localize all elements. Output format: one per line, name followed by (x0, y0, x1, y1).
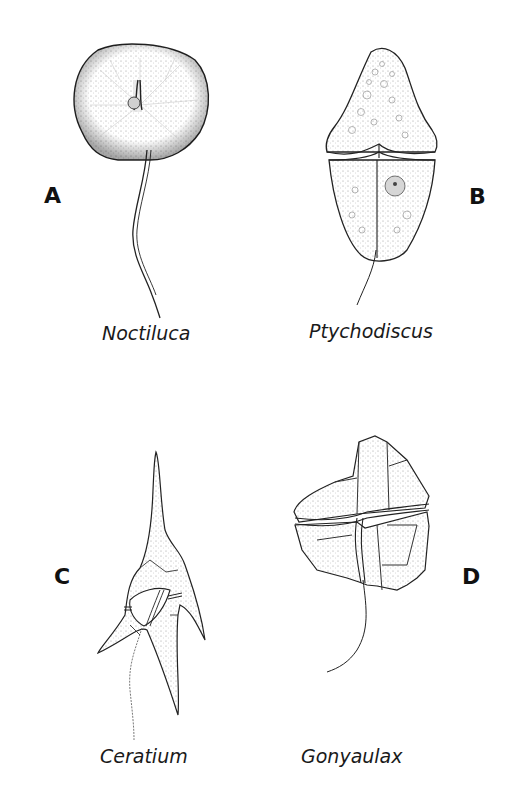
panel-letter-a: A (44, 183, 61, 208)
panel-a-noctiluca: A Noctiluca (0, 0, 257, 400)
caption-gonyaulax: Gonyaulax (301, 745, 403, 767)
panel-letter-d: D (462, 564, 480, 589)
caption-noctiluca: Noctiluca (102, 322, 190, 344)
gonyaulax-illustration (257, 400, 514, 797)
ceratium-illustration (0, 400, 257, 797)
dinoflagellate-figure: A Noctiluca B Ptychodiscus (0, 0, 514, 797)
caption-ptychodiscus: Ptychodiscus (309, 320, 433, 342)
panel-letter-b: B (469, 184, 486, 209)
panel-d-gonyaulax: D Gonyaulax (257, 400, 514, 797)
panel-b-ptychodiscus: B Ptychodiscus (257, 0, 514, 400)
panel-c-ceratium: C Ceratium (0, 400, 257, 797)
panel-letter-c: C (54, 564, 70, 589)
caption-ceratium: Ceratium (100, 745, 188, 767)
